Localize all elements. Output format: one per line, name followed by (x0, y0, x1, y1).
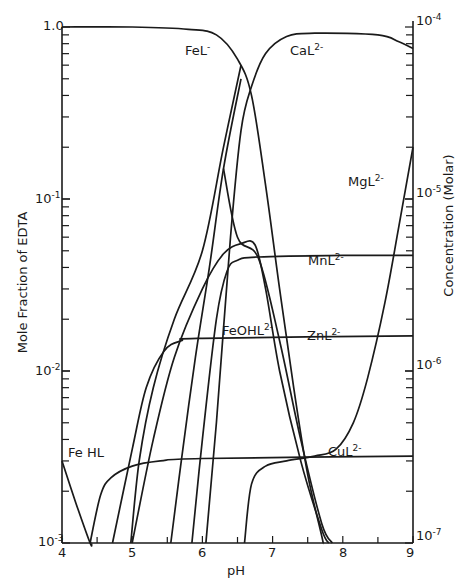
series-fel--label: FeL- (185, 42, 210, 58)
series-label-charge: 2- (314, 42, 323, 52)
y-right-tick-1e-7: 10-7 (416, 527, 442, 543)
series-fehl-line (62, 461, 92, 546)
y-right-tick-exp: -7 (433, 527, 442, 537)
x-tick-7: 7 (268, 545, 276, 560)
x-tick-4: 4 (58, 545, 66, 560)
series-label-text: CaL (290, 43, 314, 58)
series-feohl2--label: FeOHL2- (222, 322, 273, 338)
y-left-tick-exp: -3 (55, 533, 64, 543)
y-left-tick-base: 10 (35, 363, 52, 378)
series-cal2--line (206, 33, 413, 543)
series-znl2--label: ZnL2- (307, 327, 340, 343)
x-tick-9: 9 (406, 545, 414, 560)
series-fel--line (62, 27, 323, 543)
x-tick-8: 8 (339, 545, 347, 560)
series-label-charge: 2- (331, 327, 340, 337)
series-label-charge: - (207, 42, 210, 52)
series-label-text: FeOHL (222, 323, 264, 338)
series-label-text: CuL (328, 444, 353, 459)
series-label-charge: 2- (335, 252, 344, 262)
y-right-tick-base: 10 (416, 13, 433, 28)
y-left-tick-0.01: 10-2 (35, 362, 61, 378)
series-mgl2--label: MgL2- (348, 173, 384, 189)
x-axis-title: pH (227, 563, 245, 578)
series-label-text: Fe HL (68, 445, 104, 460)
y-right-tick-1e-5: 10-5 (416, 184, 442, 200)
series-label-charge: 2- (264, 322, 273, 332)
series-cul2--label: CuL2- (328, 443, 362, 459)
series-feohl2--line (132, 241, 329, 543)
y-right-tick-exp: -6 (433, 356, 442, 366)
y-right-tick-exp: -4 (433, 12, 442, 22)
series-label-text: FeL (185, 43, 207, 58)
series-mnl2--label: MnL2- (308, 252, 344, 268)
series-steep-fall-line (224, 169, 333, 543)
series-mgl2--line (245, 147, 414, 543)
y-left-tick-1: 1.0 (43, 18, 64, 33)
series-label-charge: 2- (353, 443, 362, 453)
y-right-tick-base: 10 (416, 357, 433, 372)
series-label-charge: 2- (375, 173, 384, 183)
y-left-tick-base: 10 (35, 191, 52, 206)
series-cal2--label: CaL2- (290, 42, 323, 58)
y-right-tick-base: 10 (416, 528, 433, 543)
x-tick-6: 6 (198, 545, 206, 560)
chart-canvas (0, 0, 463, 582)
series-lines (62, 27, 413, 546)
series-label-text: MnL (308, 253, 335, 268)
y-right-axis-title: Concentration (Molar) (441, 141, 456, 311)
y-left-axis-title: Mole Fraction of EDTA (15, 203, 30, 363)
y-left-tick-0.1: 10-1 (35, 190, 61, 206)
series-line-5.55-line (171, 79, 241, 543)
series-label-text: ZnL (307, 328, 331, 343)
x-tick-5: 5 (128, 545, 136, 560)
series-fehl-label: Fe HL (68, 445, 104, 460)
y-right-tick-1e-6: 10-6 (416, 356, 442, 372)
y-left-tick-exp: -2 (52, 362, 61, 372)
y-left-tick-base: 10 (38, 534, 55, 549)
series-label-text: MgL (348, 174, 375, 189)
series-znl2--line (113, 336, 414, 543)
y-right-tick-1e-4: 10-4 (416, 12, 442, 28)
y-right-tick-base: 10 (416, 185, 433, 200)
y-left-tick-exp: -1 (52, 190, 61, 200)
